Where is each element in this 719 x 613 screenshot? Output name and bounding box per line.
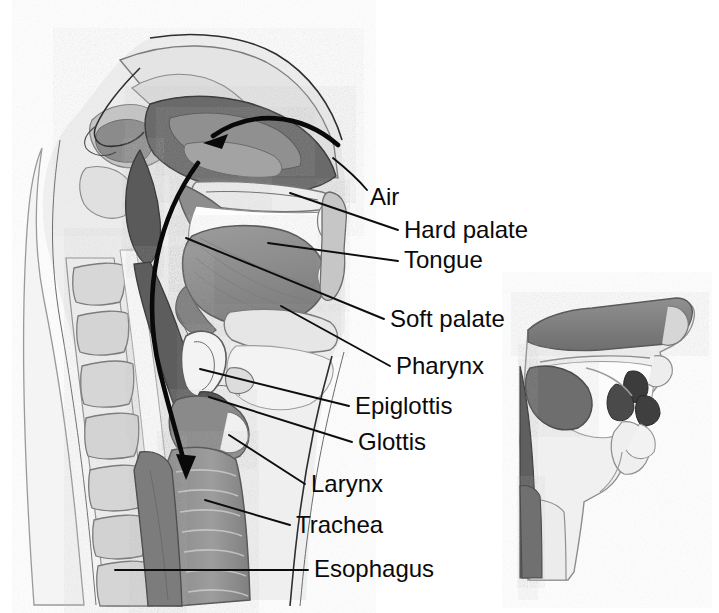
label-hard-palate: Hard palate [404,216,528,243]
label-pharynx: Pharynx [396,352,484,379]
label-trachea: Trachea [296,511,384,538]
label-larynx: Larynx [311,470,383,497]
label-air: Air [370,183,399,210]
label-esophagus: Esophagus [314,555,434,582]
inset-sagittal-view [520,298,694,580]
label-glottis: Glottis [358,428,426,455]
anatomy-figure: Air Hard palate Tongue Soft palate Phary… [0,0,719,613]
anatomy-illustration: Air Hard palate Tongue Soft palate Phary… [0,0,719,613]
label-tongue: Tongue [404,246,483,273]
label-epiglottis: Epiglottis [355,392,452,419]
mandible [224,309,337,409]
label-soft-palate: Soft palate [390,305,505,332]
